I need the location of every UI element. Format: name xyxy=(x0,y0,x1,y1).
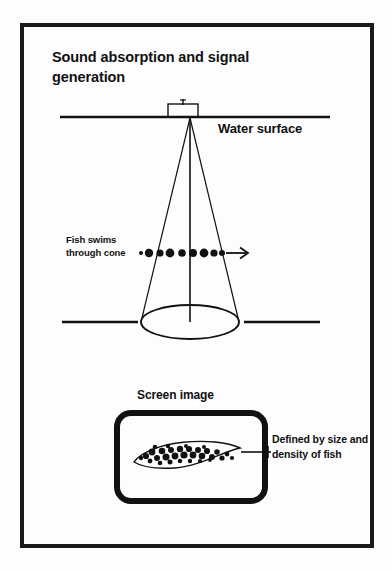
screen-image-label: Screen image xyxy=(137,388,214,402)
water-surface-label: Water surface xyxy=(218,121,302,136)
diagram-title: Sound absorption and signal generation xyxy=(52,47,302,87)
defined-by-callout-label: Defined by size and density of fish xyxy=(272,432,372,462)
fish-swims-through-cone-label: Fish swims through cone xyxy=(66,234,136,259)
